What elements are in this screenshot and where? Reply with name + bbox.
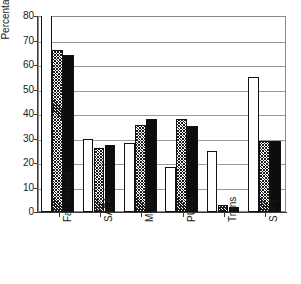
x-axis-line bbox=[37, 212, 287, 213]
x-tick-5 bbox=[265, 213, 266, 217]
x-tick-2 bbox=[141, 213, 142, 217]
x-tick-0 bbox=[59, 213, 60, 217]
y-tick-60 bbox=[34, 65, 38, 66]
y-tick-label-50: 50 bbox=[8, 85, 34, 95]
x-tick-label-1: SAFA bbox=[104, 196, 114, 222]
y-tick-70 bbox=[34, 41, 38, 42]
x-tick-label-2: MUFA bbox=[145, 194, 155, 222]
y-axis-tick-labels: 01020304050607080 bbox=[0, 0, 34, 284]
x-tick-label-4: Trans bbox=[228, 197, 238, 222]
bar-mufa-series-1-open bbox=[124, 143, 135, 212]
y-tick-30 bbox=[34, 139, 38, 140]
y-tick-label-80: 80 bbox=[8, 11, 34, 21]
y-tick-40 bbox=[34, 114, 38, 115]
x-tick-1 bbox=[100, 213, 101, 217]
bar-pufa-series-1-open bbox=[165, 167, 176, 212]
bar-group bbox=[162, 16, 203, 212]
bar-group bbox=[38, 16, 79, 212]
x-tick-label-5: S + T bbox=[269, 198, 279, 222]
y-tick-label-10: 10 bbox=[8, 183, 34, 193]
y-tick-label-60: 60 bbox=[8, 60, 34, 70]
y-tick-0 bbox=[34, 212, 38, 213]
y-tick-50 bbox=[34, 90, 38, 91]
y-tick-label-30: 30 bbox=[8, 134, 34, 144]
bar-group bbox=[245, 16, 286, 212]
bar-group bbox=[121, 16, 162, 212]
bar-group bbox=[79, 16, 120, 212]
y-tick-10 bbox=[34, 188, 38, 189]
x-tick-label-3: PUFA bbox=[187, 196, 197, 222]
y-tick-20 bbox=[34, 163, 38, 164]
x-tick-label-0: Fat content bbox=[63, 172, 73, 222]
bar-safa-series-1-open bbox=[83, 139, 94, 213]
y-tick-label-40: 40 bbox=[8, 109, 34, 119]
y-tick-80 bbox=[34, 16, 38, 17]
x-tick-3 bbox=[183, 213, 184, 217]
y-tick-label-20: 20 bbox=[8, 158, 34, 168]
bar-chart: Percentage 01020304050607080 Fat content… bbox=[0, 0, 301, 284]
x-tick-4 bbox=[224, 213, 225, 217]
bar-trans-series-1-open bbox=[207, 151, 218, 212]
bar-group bbox=[203, 16, 244, 212]
bars-layer bbox=[38, 16, 286, 212]
y-tick-label-70: 70 bbox=[8, 36, 34, 46]
bar-st-series-1-open bbox=[248, 77, 259, 212]
y-tick-label-0: 0 bbox=[8, 207, 34, 217]
bar-fatcontent-series-1-open bbox=[41, 16, 52, 212]
